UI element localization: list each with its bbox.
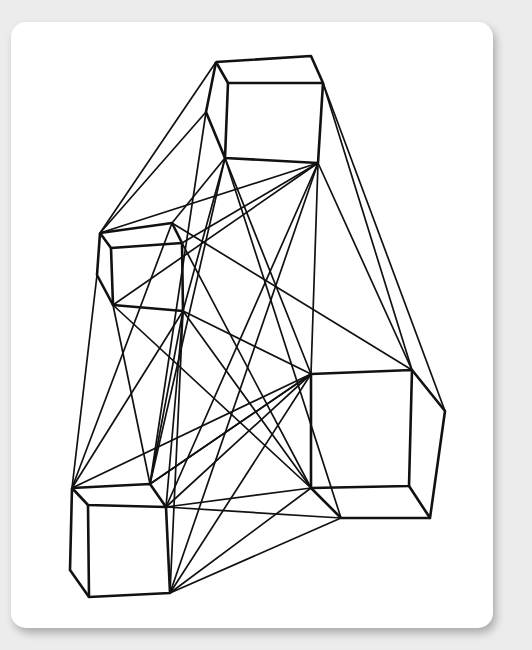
- edge-line: [150, 374, 311, 484]
- edge-line: [225, 158, 341, 518]
- right-cube: [409, 370, 445, 518]
- edge-line: [100, 163, 318, 233]
- edge-line: [323, 83, 445, 411]
- left-cube: [111, 243, 183, 311]
- edge-line: [183, 311, 311, 374]
- top-cube: [225, 83, 323, 163]
- edge-line: [183, 311, 311, 488]
- top-cube: [206, 62, 225, 158]
- wireframe-cubes-drawing: [0, 0, 532, 650]
- edge-line: [166, 507, 341, 518]
- edge-line: [323, 83, 412, 370]
- bottom-cube: [88, 505, 170, 597]
- edge-line: [170, 311, 183, 593]
- bottom-cube: [72, 484, 166, 507]
- edge-line: [172, 223, 412, 370]
- edge-line: [100, 62, 216, 233]
- top-cube: [216, 56, 323, 83]
- edge-line: [225, 158, 311, 374]
- edge-line: [311, 163, 318, 374]
- edge-line: [182, 163, 318, 243]
- edge-line: [150, 158, 225, 484]
